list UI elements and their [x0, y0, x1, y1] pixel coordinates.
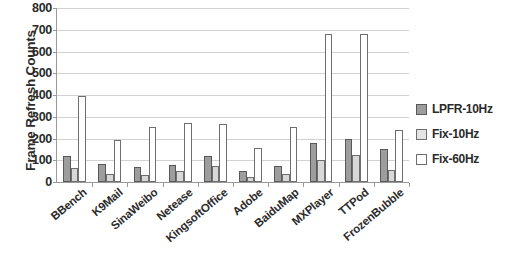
bar-lpfr-10hz-ttpod — [345, 139, 353, 183]
legend-swatch-icon — [416, 129, 427, 140]
x-axis-label-bbench: BBench — [49, 186, 89, 222]
bar-fix-10hz-ttpod — [352, 155, 360, 182]
bar-fix-10hz-mxplayer — [317, 160, 325, 182]
bar-lpfr-10hz-baidumap — [274, 166, 282, 182]
bar-lpfr-10hz-sinaweibo — [134, 167, 142, 182]
bar-group — [303, 8, 338, 182]
bar-fix-10hz-kingsoftoffice — [212, 166, 220, 182]
legend-item-fix-10hz: Fix-10Hz — [416, 123, 512, 145]
bar-fix-10hz-baidumap — [282, 174, 290, 182]
y-axis-tick — [53, 182, 57, 183]
bar-group — [163, 8, 198, 182]
bar-fix-10hz-bbench — [71, 168, 79, 182]
bar-fix-60hz-frozenbubble — [395, 130, 403, 182]
bar-fix-10hz-netease — [176, 171, 184, 182]
bar-fix-10hz-adobe — [247, 177, 255, 182]
x-axis-tick-labels: BBenchK9MailSinaWeiboNeteaseKingsoftOffi… — [56, 186, 408, 262]
bar-lpfr-10hz-adobe — [239, 171, 247, 182]
bar-fix-60hz-kingsoftoffice — [219, 124, 227, 182]
x-axis-tick — [409, 183, 410, 187]
y-axis-tick-label: 0 — [18, 175, 52, 189]
bar-fix-60hz-k9mail — [114, 140, 122, 182]
x-axis-label-kingsoftoffice: KingsoftOffice — [164, 186, 230, 244]
y-axis-tick-label: 600 — [18, 45, 52, 59]
bar-lpfr-10hz-netease — [169, 165, 177, 182]
bar-fix-10hz-sinaweibo — [141, 175, 149, 182]
bar-group — [198, 8, 233, 182]
bar-lpfr-10hz-k9mail — [98, 164, 106, 182]
bar-fix-60hz-bbench — [78, 96, 86, 182]
y-axis-tick-label: 700 — [18, 23, 52, 37]
bar-fix-60hz-netease — [184, 123, 192, 182]
bar-fix-10hz-frozenbubble — [388, 170, 396, 182]
bar-lpfr-10hz-frozenbubble — [380, 149, 388, 182]
y-axis-tick-label: 400 — [18, 88, 52, 102]
y-axis-tick-label: 300 — [18, 110, 52, 124]
legend-label: LPFR-10Hz — [432, 102, 493, 116]
bar-group — [339, 8, 374, 182]
bar-group — [92, 8, 127, 182]
bar-fix-60hz-sinaweibo — [149, 127, 157, 182]
legend-item-lpfr-10hz: LPFR-10Hz — [416, 98, 512, 120]
y-axis-tick-label: 200 — [18, 132, 52, 146]
bar-fix-10hz-k9mail — [106, 174, 114, 182]
chart-legend: LPFR-10HzFix-10HzFix-60Hz — [416, 98, 512, 173]
bar-fix-60hz-ttpod — [360, 34, 368, 182]
legend-item-fix-60hz: Fix-60Hz — [416, 148, 512, 170]
bar-group — [127, 8, 162, 182]
y-axis-tick-label: 100 — [18, 153, 52, 167]
bar-lpfr-10hz-mxplayer — [310, 143, 318, 182]
bar-group — [57, 8, 92, 182]
plot-area — [56, 8, 409, 183]
bar-fix-60hz-baidumap — [290, 127, 298, 182]
legend-label: Fix-10Hz — [432, 127, 479, 141]
bar-fix-60hz-mxplayer — [325, 34, 333, 182]
bar-fix-60hz-adobe — [254, 148, 262, 182]
bar-group — [374, 8, 409, 182]
y-axis-tick-label: 500 — [18, 66, 52, 80]
bar-group — [233, 8, 268, 182]
legend-swatch-icon — [416, 104, 427, 115]
bar-group — [268, 8, 303, 182]
y-axis-tick-label: 800 — [18, 1, 52, 15]
y-axis-tick-labels: 0100200300400500600700800 — [18, 0, 52, 190]
legend-swatch-icon — [416, 154, 427, 165]
legend-label: Fix-60Hz — [432, 152, 479, 166]
bar-lpfr-10hz-kingsoftoffice — [204, 156, 212, 182]
bar-chart: Frame Refresh Counts 0100200300400500600… — [0, 0, 514, 262]
bar-lpfr-10hz-bbench — [63, 156, 71, 182]
